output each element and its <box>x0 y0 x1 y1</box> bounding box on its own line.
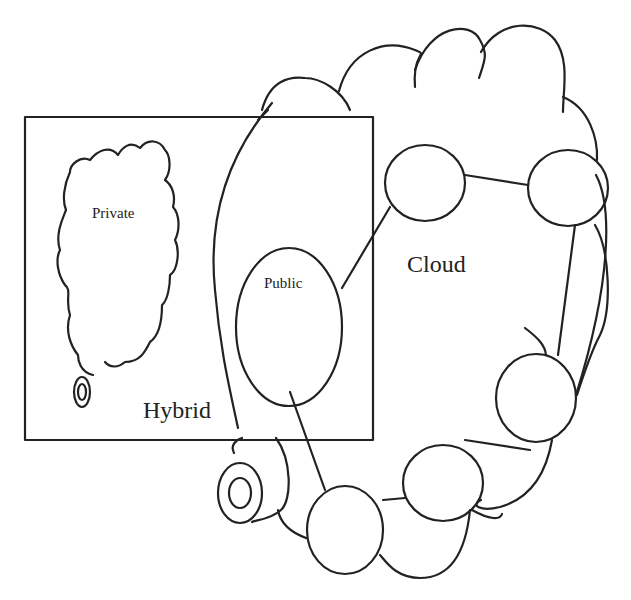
node-bottom <box>307 486 383 574</box>
private-node-outer <box>74 377 90 407</box>
cloud-label: Cloud <box>407 251 466 277</box>
public-label: Public <box>264 275 303 291</box>
cloud-edge-tick <box>258 110 268 120</box>
public-ellipse <box>236 248 342 406</box>
node-right <box>496 354 576 442</box>
private-label: Private <box>92 205 135 221</box>
cloud-diagram: Private Public Cloud Hybrid <box>0 0 631 600</box>
hybrid-node-inner <box>229 478 251 508</box>
connectors <box>290 175 606 518</box>
cloud-outline <box>233 26 608 578</box>
private-node-inner <box>78 384 86 400</box>
hybrid-node-outer <box>218 463 262 523</box>
hybrid-divider-curve <box>214 103 272 428</box>
hybrid-label: Hybrid <box>143 397 211 423</box>
node-top-left <box>385 145 465 221</box>
node-top-right <box>528 150 608 226</box>
private-cloud <box>58 141 179 407</box>
